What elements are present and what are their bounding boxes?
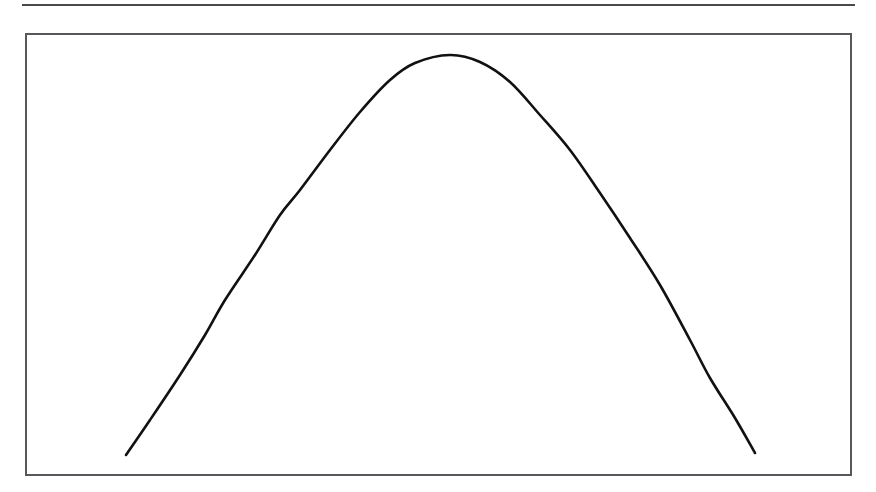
plot-frame xyxy=(25,33,852,476)
horizontal-rule xyxy=(22,4,855,6)
figure-page xyxy=(0,0,876,492)
